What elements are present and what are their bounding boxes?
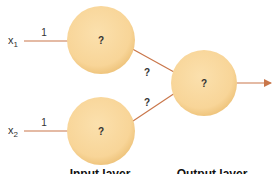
input-node-1-value: ? bbox=[98, 35, 104, 46]
output-layer-label: Output layer bbox=[177, 167, 248, 174]
neural-network-diagram: ? ? ? x1 x2 1 1 ? ? Input layer Output l… bbox=[0, 0, 278, 174]
input-weight-2: 1 bbox=[41, 117, 47, 128]
output-node-value: ? bbox=[201, 78, 207, 89]
input-x1-label: x1 bbox=[8, 34, 19, 49]
input-node-2-value: ? bbox=[98, 126, 104, 137]
input-layer-label: Input layer bbox=[70, 167, 131, 174]
output-weight-2: ? bbox=[144, 97, 150, 108]
output-weight-1: ? bbox=[144, 67, 150, 78]
connection-node2-output bbox=[127, 93, 175, 125]
connection-node1-output bbox=[127, 46, 174, 72]
input-weight-1: 1 bbox=[41, 27, 47, 38]
input-x2-label: x2 bbox=[8, 124, 19, 139]
